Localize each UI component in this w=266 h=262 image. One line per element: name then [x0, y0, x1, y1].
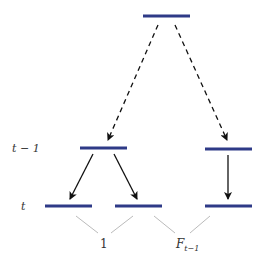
tree-diagram: t − 1 t 1 Ft−1 — [0, 0, 266, 262]
brace-f-right — [190, 216, 210, 233]
level-label-t: t — [21, 200, 26, 213]
edge-a-a2 — [114, 154, 137, 199]
level-label-t-minus-1: t − 1 — [12, 142, 40, 155]
brace-1-left — [76, 216, 98, 233]
edge-root-a — [108, 25, 158, 140]
brace-1-right — [111, 216, 133, 233]
brace-label-f: Ft−1 — [175, 237, 199, 253]
brace-label-1: 1 — [100, 237, 108, 251]
brace-f-left — [154, 216, 175, 233]
edge-a-a1 — [70, 154, 93, 199]
brace-label-f-sub: t−1 — [184, 244, 199, 253]
edge-root-b — [175, 25, 227, 140]
